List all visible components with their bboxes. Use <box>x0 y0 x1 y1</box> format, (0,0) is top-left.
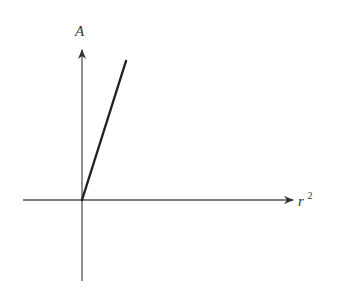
x-axis-label: r 2 <box>298 190 313 209</box>
x-axis-label-exponent: 2 <box>308 190 313 201</box>
x-axis-label-base: r <box>298 193 304 209</box>
proportional-line <box>82 61 126 200</box>
diagram-canvas: A r 2 <box>0 0 337 289</box>
y-axis-label: A <box>74 23 85 39</box>
